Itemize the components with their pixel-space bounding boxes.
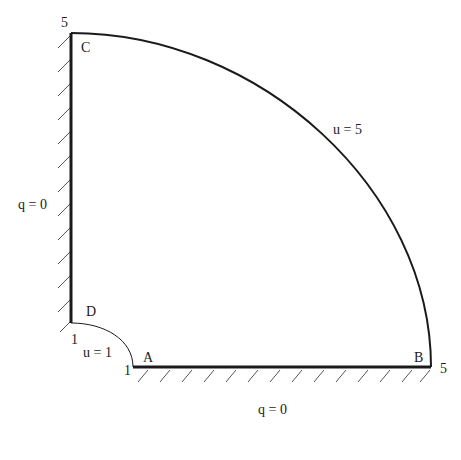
inner-arc-label: u = 1 xyxy=(83,345,112,360)
coord-label-d: 1 xyxy=(71,332,78,347)
outer-arc-label: u = 5 xyxy=(333,122,362,137)
corner-label-d: D xyxy=(86,304,96,319)
corner-label-c: C xyxy=(81,40,90,55)
left-wall-label: q = 0 xyxy=(18,197,47,212)
diagram-canvas: C D A B 5 1 1 5 u = 5 u = 1 q = 0 q = 0 xyxy=(0,0,461,460)
corner-label-b: B xyxy=(414,350,423,365)
coord-label-a: 1 xyxy=(124,363,131,378)
corner-label-a: A xyxy=(143,350,154,365)
bottom-wall-label: q = 0 xyxy=(258,402,287,417)
bottom-wall-hatching xyxy=(138,370,430,382)
coord-label-c: 5 xyxy=(61,15,68,30)
outer-arc xyxy=(71,33,431,367)
left-wall-hatching xyxy=(58,36,70,332)
coord-label-b: 5 xyxy=(440,361,447,376)
